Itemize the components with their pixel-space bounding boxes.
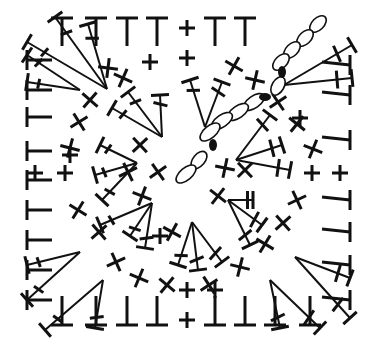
cross-b [305, 140, 321, 159]
sc-cross-icon [286, 189, 308, 211]
tall-stitch-crossbar [140, 237, 154, 239]
hdc-stem [322, 297, 350, 300]
tall-stitch-stem [100, 145, 137, 163]
tall-stitch-bar [271, 326, 289, 330]
hdc-symbol-icon [264, 296, 286, 325]
sc-plus-icon [179, 50, 195, 66]
hdc-symbol-icon [322, 190, 350, 210]
tall-stitch-bar [136, 247, 154, 250]
cross-b [258, 235, 272, 252]
sc-plus-icon [57, 165, 73, 181]
sc-cross-icon [214, 157, 235, 178]
sc-cross-icon [131, 136, 150, 155]
hdc-symbol-icon [146, 18, 168, 46]
slip-stitch-icon [278, 66, 286, 78]
chain-stitch-icon [197, 120, 223, 145]
hdc-symbol-icon [85, 296, 107, 325]
sc-plus-icon [179, 312, 195, 328]
tall-stitch-crossbar [277, 159, 280, 177]
chain-stitch-icon [173, 162, 199, 187]
tall-stitch-bar [86, 327, 104, 330]
tall-stitch-bar [151, 95, 169, 96]
sc-cross-icon [256, 235, 274, 253]
cross-b [71, 202, 84, 219]
tall-stitch-crossbar [250, 212, 258, 227]
fan-top-left-outer [22, 12, 107, 89]
sc-cross-icon [303, 139, 323, 159]
tall-stitch-crossbar [212, 87, 225, 96]
tall-stitch-bar [263, 110, 277, 121]
sc-cross-icon [113, 68, 132, 87]
sc-cross-icon [244, 69, 265, 90]
cross-b [161, 277, 174, 294]
tall-stitch-bar [121, 87, 135, 98]
tall-stitch-bar [347, 37, 356, 53]
fan-bottom-left [39, 280, 104, 337]
tall-stitch-bar [96, 137, 104, 153]
tall-stitch-crossbar [153, 103, 167, 106]
hdc-symbol-icon [116, 296, 138, 325]
cross-b [165, 223, 179, 241]
sc-cross-icon [225, 57, 243, 75]
tall-stitch-stem [236, 115, 270, 160]
tall-stitch-crossbar [38, 79, 40, 89]
tall-stitch-crossbar [102, 168, 106, 177]
hdc-symbol-icon [27, 200, 52, 220]
hdc-symbol-icon [322, 222, 350, 242]
tall-stitch-bar [215, 257, 229, 268]
tall-stitch-crossbar [129, 227, 141, 231]
tall-stitch-bar [123, 231, 138, 241]
tall-stitch-crossbar [37, 257, 40, 267]
sc-cross-icon [81, 91, 98, 108]
sc-cross-icon [159, 277, 176, 294]
hdc-symbol-icon [27, 230, 52, 250]
crochet-chart [0, 0, 366, 345]
hdc-symbol-icon [204, 18, 226, 46]
sc-cross-icon [69, 201, 86, 218]
tall-stitch-bar [107, 100, 116, 116]
sc-plus-icon [152, 228, 168, 244]
hdc-stem [322, 137, 350, 140]
tall-stitch-crossbar [333, 46, 340, 62]
hdc-symbol-icon [116, 18, 138, 46]
tall-stitch-stem [128, 92, 162, 137]
sc-plus-icon [304, 165, 320, 181]
hdc-symbol-icon [204, 296, 226, 325]
hdc-symbol-icon [322, 130, 350, 150]
slip-stitch-icon [209, 139, 217, 151]
tall-stitch-stem [178, 222, 192, 265]
tall-stitch-crossbar [130, 100, 141, 104]
hdc-symbol-icon [322, 85, 350, 105]
hdc-symbol-icon [27, 141, 52, 161]
sc-cross-icon [148, 162, 168, 182]
tall-stitch-crossbar [105, 189, 115, 195]
sc-cross-icon [105, 251, 127, 273]
tall-stitch-stem [190, 80, 205, 127]
cross-b [227, 57, 241, 74]
sc-cross-icon [236, 161, 254, 179]
tall-stitch-bar [242, 241, 258, 249]
sc-cross-icon [129, 268, 148, 287]
sc-cross-icon [274, 214, 293, 233]
cross-b [134, 187, 150, 206]
tall-stitch-bar [22, 34, 31, 50]
tall-stitch-crossbar [119, 110, 126, 118]
tall-stitch-stem [295, 257, 350, 318]
tall-stitch-stem [160, 95, 162, 137]
sc-cross-icon [210, 188, 226, 204]
fan-inner-top-left [107, 87, 169, 137]
hdc-symbol-icon [27, 290, 52, 310]
hdc-stem [322, 62, 350, 65]
sc-plus-icon [332, 165, 348, 181]
sc-plus-icon [179, 20, 195, 36]
chain-stitch-icon [268, 74, 288, 97]
tall-stitch-bar [288, 161, 291, 179]
sc-cross-icon [230, 257, 251, 278]
hdc-stem [322, 197, 350, 200]
tall-stitch-crossbar [239, 230, 252, 240]
hdc-symbol-icon [234, 296, 256, 325]
fan-left-lower [21, 252, 80, 307]
tall-stitch-crossbar [270, 140, 274, 157]
hdc-symbol-icon [27, 107, 52, 127]
tall-stitch-stem [112, 108, 162, 137]
